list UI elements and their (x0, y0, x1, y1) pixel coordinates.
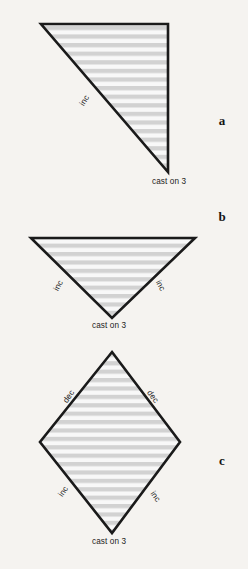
figure-canvas: inc cast on 3 a inc inc cast on 3 b (0, 0, 248, 569)
diamond-c-outline (40, 352, 180, 533)
panel-c-shape (0, 0, 248, 569)
panel-letter-c: c (213, 453, 231, 469)
cast-on-label-c: cast on 3 (92, 537, 126, 546)
